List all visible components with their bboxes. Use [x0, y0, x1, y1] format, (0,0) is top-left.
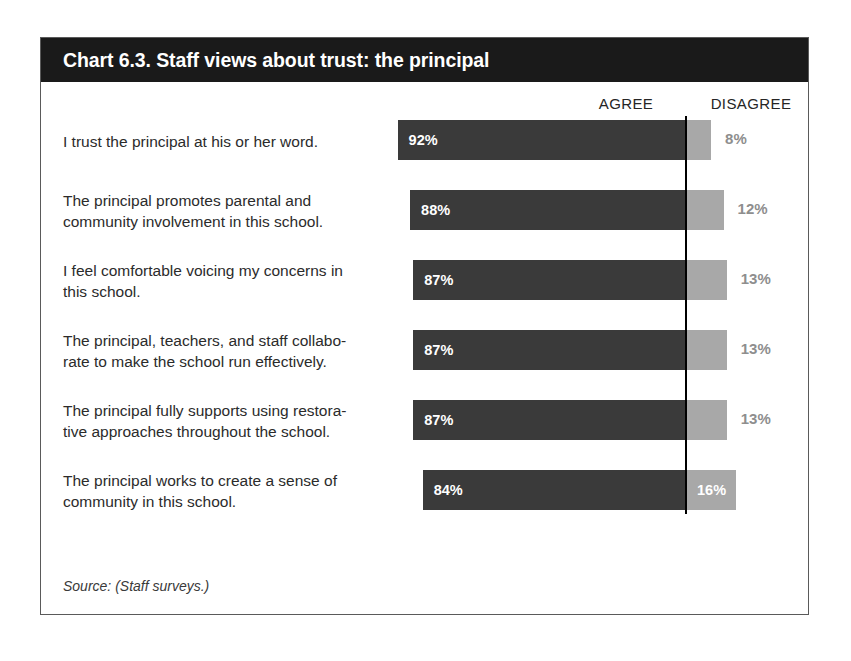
bar-agree: 87% [413, 400, 686, 440]
bar-value-agree: 87% [413, 342, 453, 358]
bar-disagree [686, 120, 711, 160]
column-header-agree: AGREE [581, 95, 671, 112]
bar-track: 87%13% [41, 400, 808, 470]
bar-track: 88%12% [41, 190, 808, 260]
chart-title: Chart 6.3. Staff views about trust: the … [63, 49, 489, 72]
bar-agree: 87% [413, 260, 686, 300]
bar-track: 87%13% [41, 330, 808, 400]
bar-value-agree: 88% [410, 202, 450, 218]
bar-value-agree: 87% [413, 412, 453, 428]
bar-value-disagree: 13% [741, 410, 771, 427]
bar-disagree [686, 260, 727, 300]
chart-row: I feel comfortable voicing my concerns i… [41, 260, 808, 330]
bar-agree: 87% [413, 330, 686, 370]
column-headers: AGREE DISAGREE [41, 95, 808, 117]
bar-value-disagree: 16% [686, 482, 726, 498]
bar-track: 87%13% [41, 260, 808, 330]
source-note: Source: (Staff surveys.) [63, 578, 209, 594]
bar-value-disagree: 13% [741, 340, 771, 357]
chart-row: The principal works to create a sense of… [41, 470, 808, 540]
chart-page: Chart 6.3. Staff views about trust: the … [0, 0, 851, 661]
bar-agree: 92% [398, 120, 686, 160]
bar-disagree [686, 330, 727, 370]
column-header-disagree: DISAGREE [691, 95, 811, 112]
bar-value-agree: 84% [423, 482, 463, 498]
chart-title-bar: Chart 6.3. Staff views about trust: the … [41, 38, 808, 82]
bar-agree: 88% [410, 190, 686, 230]
bar-value-agree: 87% [413, 272, 453, 288]
bar-value-disagree: 13% [741, 270, 771, 287]
axis-divider-line-full [685, 116, 687, 514]
bar-track: 92%8% [41, 120, 808, 190]
chart-frame: Chart 6.3. Staff views about trust: the … [40, 37, 809, 615]
bar-disagree [686, 400, 727, 440]
chart-row: The principal fully supports using resto… [41, 400, 808, 470]
bar-agree: 84% [423, 470, 686, 510]
chart-rows: I trust the principal at his or her word… [41, 120, 808, 540]
chart-row: The principal promotes parental andcommu… [41, 190, 808, 260]
chart-row: I trust the principal at his or her word… [41, 120, 808, 190]
bar-track: 84%16% [41, 470, 808, 540]
bar-value-agree: 92% [398, 132, 438, 148]
bar-value-disagree: 12% [738, 200, 768, 217]
chart-body: AGREE DISAGREE I trust the principal at … [41, 82, 808, 616]
bar-value-disagree: 8% [725, 130, 747, 147]
bar-disagree: 16% [686, 470, 736, 510]
bar-disagree [686, 190, 724, 230]
chart-row: The principal, teachers, and staff colla… [41, 330, 808, 400]
